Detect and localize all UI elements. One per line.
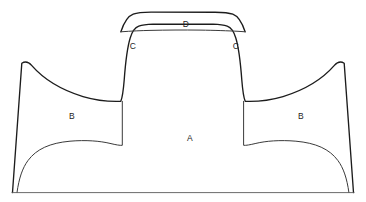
cap-sag-divider-path xyxy=(121,30,245,32)
region-label-b-left: B xyxy=(69,112,75,121)
region-label-c-left: C xyxy=(130,42,136,51)
region-label-c-right: C xyxy=(233,42,239,51)
region-label-d: D xyxy=(183,20,189,29)
inner-dome-right-path xyxy=(244,101,349,192)
region-label-b-right: B xyxy=(298,112,304,121)
region-label-a: A xyxy=(187,134,193,143)
outer-silhouette-path xyxy=(13,24,354,192)
diagram-figure: D C C B B A xyxy=(0,0,366,202)
diagram-svg-canvas xyxy=(0,0,366,202)
